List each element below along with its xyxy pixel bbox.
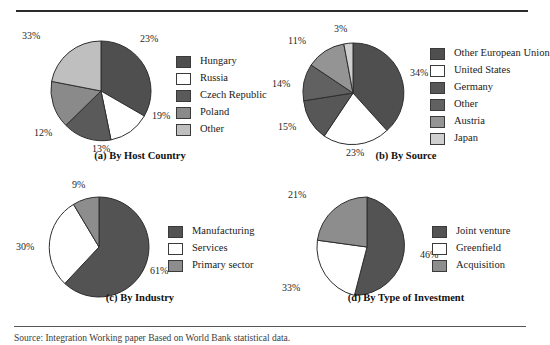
legend-label: Manufacturing [192,226,254,237]
legend-label: Primary sector [192,260,254,271]
legend-swatch-icon [430,99,445,111]
legend-item-czech-republic[interactable]: Czech Republic [176,88,267,103]
legend-item-acquisition[interactable]: Acquisition [432,258,511,273]
legend-swatch-icon [432,260,447,272]
pie-a-label-hungary: 23% [140,34,158,44]
legend-item-other[interactable]: Other [176,122,267,137]
legend-label: Greenfield [456,243,501,254]
legend-swatch-icon [168,226,183,238]
legend-label: Japan [454,133,478,144]
legend-label: Acquisition [456,260,505,271]
pie-b-svg [300,40,406,146]
legend-label: Other [454,99,478,110]
top-rule [16,10,528,12]
legend-label: Other European Union [454,48,550,59]
pie-b-label-other-european-union: 34% [410,68,428,78]
pie-a-label-poland: 12% [34,128,52,138]
pie-chart-b: 34% 23% 15% 14% 11% 3% [300,40,406,146]
legend-item-other[interactable]: Other [430,97,550,112]
legend-item-germany[interactable]: Germany [430,80,550,95]
legend-swatch-icon [432,226,447,238]
legend-item-other-european-union[interactable]: Other European Union [430,46,550,61]
legend-label: Russia [200,73,228,84]
legend-label: Other [200,124,224,135]
legend-item-manufacturing[interactable]: Manufacturing [168,224,254,239]
legend-item-primary-sector[interactable]: Primary sector [168,258,254,273]
legend-swatch-icon [168,260,183,272]
legend-label: Austria [454,116,485,127]
legend-label: Czech Republic [200,90,267,101]
pie-a-label-other: 33% [22,31,40,41]
pie-b-label-germany: 15% [278,122,296,132]
legend-item-hungary[interactable]: Hungary [176,54,267,69]
legend-b: Other European Union United States Germa… [430,46,550,148]
caption-panel-b: (b) By Source [272,150,540,161]
legend-item-services[interactable]: Services [168,241,254,256]
legend-swatch-icon [430,116,445,128]
legend-swatch-icon [168,243,183,255]
panel-by-source: 34% 23% 15% 14% 11% 3% Other European Un… [272,22,540,170]
panel-by-type-of-investment: 46% 33% 21% Joint venture Greenfield Acq… [272,176,540,316]
pie-c-label-services: 30% [16,242,34,252]
pie-chart-a: 23% 19% 13% 12% 33% [48,38,154,144]
legend-label: Services [192,243,228,254]
pie-a-label-russia: 19% [152,111,170,121]
legend-c: Manufacturing Services Primary sector [168,224,254,275]
legend-item-japan[interactable]: Japan [430,131,550,146]
caption-panel-c: (c) By Industry [8,292,272,303]
pie-chart-d: 46% 33% 21% [314,194,420,300]
pie-d-slice-acquisition [317,197,367,247]
legend-swatch-icon [432,243,447,255]
legend-label: Joint venture [456,226,511,237]
legend-swatch-icon [176,56,191,68]
source-note: Source: Integration Working paper Based … [14,333,534,345]
legend-swatch-icon [176,107,191,119]
legend-label: Germany [454,82,493,93]
pie-b-label-japan: 3% [334,24,347,34]
panel-by-host-country: 23% 19% 13% 12% 33% Hungary Russia Czech… [8,22,272,170]
legend-item-united-states[interactable]: United States [430,63,550,78]
legend-swatch-icon [176,90,191,102]
pie-b-label-austria: 11% [288,36,306,46]
legend-label: Hungary [200,56,237,67]
legend-item-russia[interactable]: Russia [176,71,267,86]
legend-item-austria[interactable]: Austria [430,114,550,129]
pie-d-svg [314,194,420,300]
legend-a: Hungary Russia Czech Republic Poland Oth… [176,54,267,139]
pie-c-label-primary-sector: 9% [72,180,85,190]
legend-d: Joint venture Greenfield Acquisition [432,224,511,275]
legend-label: United States [454,65,510,76]
legend-swatch-icon [430,48,445,60]
pie-b-label-other: 14% [272,79,290,89]
pie-c-svg [46,194,152,300]
legend-item-poland[interactable]: Poland [176,105,267,120]
legend-swatch-icon [430,82,445,94]
panel-by-industry: 61% 30% 9% Manufacturing Services Primar… [8,176,272,316]
legend-swatch-icon [176,124,191,136]
legend-swatch-icon [176,73,191,85]
pie-a-svg [48,38,154,144]
bottom-rule [14,326,526,327]
legend-label: Poland [200,107,229,118]
legend-item-joint-venture[interactable]: Joint venture [432,224,511,239]
pie-d-label-acquisition: 21% [288,190,306,200]
legend-item-greenfield[interactable]: Greenfield [432,241,511,256]
caption-panel-d: (d) By Type of Investment [272,292,540,303]
pie-chart-c: 61% 30% 9% [46,194,152,300]
legend-swatch-icon [430,133,445,145]
legend-swatch-icon [430,65,445,77]
pie-c-label-manufacturing: 61% [150,266,168,276]
caption-panel-a: (a) By Host Country [8,150,272,161]
